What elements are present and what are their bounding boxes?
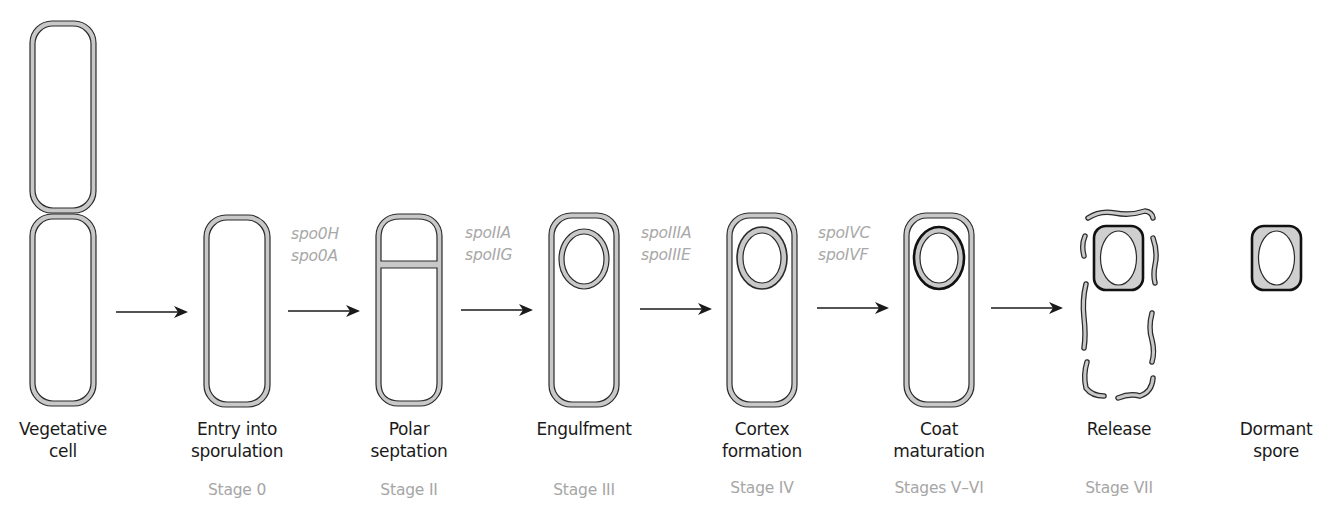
gene-label: spoIIG bbox=[465, 244, 512, 266]
release-cell-icon bbox=[1083, 211, 1156, 398]
label-cortex: Cortex formation bbox=[692, 418, 832, 462]
polar-septation-cell-icon bbox=[376, 214, 442, 406]
label-engulfment: Engulfment bbox=[514, 418, 654, 440]
dormant-spore-icon bbox=[1252, 226, 1301, 290]
gene-label: spo0A bbox=[291, 245, 339, 267]
stage-number-entry: Stage 0 bbox=[162, 480, 312, 500]
gene-label: spoIVF bbox=[818, 244, 870, 266]
label-release: Release bbox=[1049, 418, 1189, 440]
gene-label: spoIIIA bbox=[641, 222, 691, 244]
engulfment-cell-icon bbox=[549, 213, 619, 407]
stage-number-cortex: Stage IV bbox=[687, 478, 837, 498]
stage-number-engulfment: Stage III bbox=[509, 480, 659, 500]
stage-number-release: Stage VII bbox=[1044, 478, 1194, 498]
label-polar: Polar septation bbox=[339, 418, 479, 462]
gene-label: spo0H bbox=[291, 223, 339, 245]
gene-label: spoIIIE bbox=[641, 244, 691, 266]
entry-cell-icon bbox=[204, 215, 270, 407]
label-entry: Entry into sporulation bbox=[167, 418, 307, 462]
label-coat: Coat maturation bbox=[869, 418, 1009, 462]
stage-number-coat: Stages V–VI bbox=[864, 478, 1014, 498]
label-dormant: Dormant spore bbox=[1206, 418, 1334, 462]
genes-polar-to-engulfment: spoIIA spoIIG bbox=[465, 222, 512, 266]
vegetative-cell-icon bbox=[30, 21, 96, 406]
gene-label: spoIVC bbox=[818, 222, 870, 244]
genes-entry-to-polar: spo0H spo0A bbox=[291, 223, 339, 267]
label-vegetative: Vegetative cell bbox=[0, 418, 133, 462]
cortex-formation-cell-icon bbox=[727, 213, 797, 407]
genes-cortex-to-coat: spoIVC spoIVF bbox=[818, 222, 870, 266]
stage-number-polar: Stage II bbox=[334, 480, 484, 500]
genes-engulfment-to-cortex: spoIIIA spoIIIE bbox=[641, 222, 691, 266]
gene-label: spoIIA bbox=[465, 222, 512, 244]
coat-maturation-cell-icon bbox=[904, 213, 974, 407]
